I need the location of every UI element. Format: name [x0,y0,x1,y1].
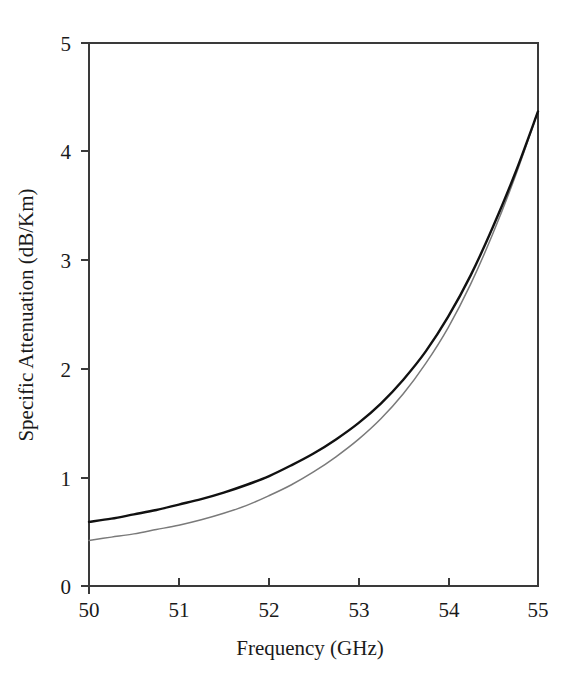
y-axis-tick-labels: 5 4 3 2 1 0 [61,32,72,599]
y-tick-label-3: 3 [61,249,72,273]
x-tick-label-50: 50 [79,598,100,622]
series-lower-curve [89,111,538,540]
y-tick-label-0: 0 [61,575,72,599]
specific-attenuation-chart: 50 51 52 53 54 55 5 4 3 2 1 0 Frequency … [0,0,573,684]
x-tick-label-53: 53 [349,598,370,622]
x-axis-title: Frequency (GHz) [236,636,384,660]
y-tick-label-2: 2 [61,358,72,382]
x-tick-label-54: 54 [439,598,461,622]
y-axis-title: Specific Attenuation (dB/Km) [14,188,38,441]
x-tick-label-55: 55 [528,598,549,622]
chart-page: 50 51 52 53 54 55 5 4 3 2 1 0 Frequency … [0,0,573,684]
data-series-group [89,111,538,540]
plot-frame [89,43,538,586]
y-axis-ticks [81,43,89,586]
y-tick-label-1: 1 [61,467,72,491]
x-axis-tick-labels: 50 51 52 53 54 55 [79,598,549,622]
y-tick-label-4: 4 [61,140,72,164]
y-tick-label-5: 5 [61,32,72,56]
series-upper-curve [89,111,538,522]
x-tick-label-52: 52 [259,598,280,622]
x-tick-label-51: 51 [169,598,190,622]
